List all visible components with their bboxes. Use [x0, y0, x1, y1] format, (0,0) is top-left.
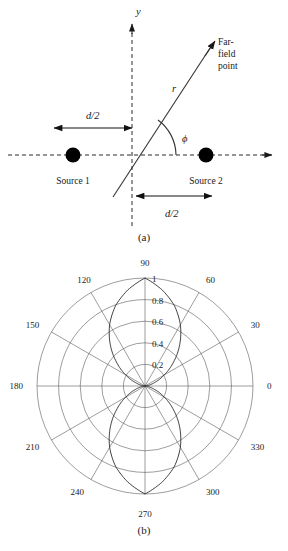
- polar-grid-spoke: [91, 292, 145, 386]
- source-2-marker: [199, 148, 214, 163]
- polar-angle-label: 0: [267, 381, 272, 391]
- polar-angle-label: 90: [141, 258, 151, 268]
- polar-angle-label: 180: [10, 381, 24, 391]
- angle-label: ϕ: [182, 133, 188, 144]
- polar-radial-label: 0.6: [152, 317, 164, 327]
- y-axis-label: y: [135, 6, 141, 17]
- ray-length-label: r: [172, 83, 177, 94]
- caption-a: (a): [0, 231, 288, 243]
- polar-grid-spoke: [51, 386, 145, 440]
- panel-a-diagram: y r ϕ Far- field point Source 1 Source 2…: [8, 6, 272, 226]
- far-field-ray-arrowhead: [205, 41, 215, 56]
- source-1-marker: [66, 148, 81, 163]
- source-2-label: Source 2: [189, 176, 223, 186]
- farfield-label-line1: Far-: [218, 37, 234, 47]
- panel-b-polar-plot: 03060901201501802102402703003300.20.40.6…: [10, 258, 273, 519]
- angle-arc: [158, 120, 176, 155]
- farfield-label-line3: point: [218, 61, 238, 71]
- figure-svg: y r ϕ Far- field point Source 1 Source 2…: [0, 0, 288, 551]
- polar-angle-label: 120: [77, 275, 91, 285]
- polar-angle-label: 30: [251, 320, 260, 330]
- far-field-ray: [113, 42, 214, 197]
- polar-angle-label: 300: [206, 487, 220, 497]
- polar-grid-spoke: [145, 386, 199, 480]
- polar-radial-label: 0.4: [152, 339, 164, 349]
- polar-angle-label: 270: [138, 509, 152, 519]
- polar-radial-label: 0.2: [152, 360, 163, 370]
- polar-grid-spoke: [145, 386, 239, 440]
- polar-angle-label: 60: [206, 275, 216, 285]
- polar-angle-label: 240: [71, 487, 85, 497]
- farfield-label-line2: field: [218, 49, 236, 59]
- polar-grid-spoke: [51, 332, 145, 386]
- source-1-label: Source 1: [56, 176, 90, 186]
- polar-grid-spoke: [91, 386, 145, 480]
- figure-container: y r ϕ Far- field point Source 1 Source 2…: [0, 0, 288, 551]
- caption-b: (b): [0, 524, 288, 536]
- dim-left-label: d/2: [86, 110, 100, 121]
- polar-angle-label: 150: [26, 320, 40, 330]
- dim-right-label: d/2: [165, 208, 179, 219]
- polar-radial-label: 0.8: [152, 296, 164, 306]
- polar-angle-label: 210: [26, 442, 40, 452]
- polar-angle-label: 330: [251, 442, 265, 452]
